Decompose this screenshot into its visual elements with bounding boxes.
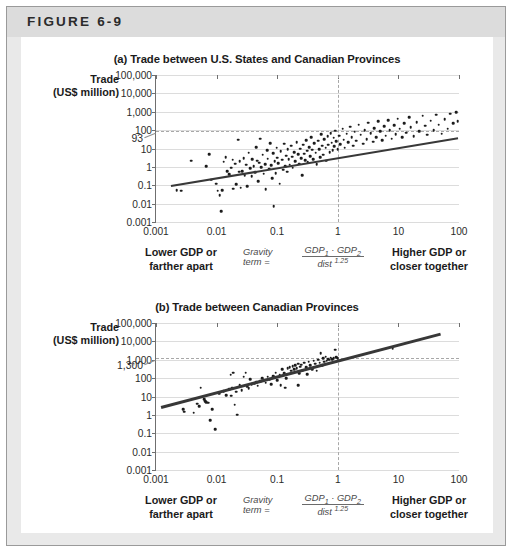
scatter-point	[332, 137, 335, 140]
scatter-point	[214, 428, 217, 431]
scatter-point	[250, 175, 253, 178]
panel-b-gravity-denominator: dist 1.25	[314, 506, 351, 517]
scatter-point	[198, 405, 201, 408]
figure-canvas: (a) Trade between U.S. States and Canadi…	[21, 37, 493, 533]
scatter-point	[443, 118, 446, 121]
scatter-point	[337, 148, 340, 151]
scatter-point	[307, 360, 310, 363]
y-tick-label: 0.1	[138, 428, 152, 439]
scatter-point	[372, 140, 375, 143]
y-tick-label: 10,000	[121, 336, 152, 347]
scatter-point	[220, 210, 223, 213]
scatter-point	[275, 172, 278, 175]
scatter-point	[277, 162, 280, 165]
x-tick-label: 0.01	[207, 226, 227, 237]
y-tick-mark	[152, 452, 156, 453]
scatter-point	[342, 138, 345, 141]
panel-b-gravity-fraction: GDP1 · GDP2 dist 1.25	[292, 493, 373, 517]
scatter-point	[248, 387, 251, 390]
scatter-point	[360, 134, 363, 137]
scatter-point	[437, 123, 440, 126]
y-tick-mark	[152, 222, 156, 223]
reference-value-annotation: 1,300	[117, 359, 143, 370]
scatter-point	[297, 384, 300, 387]
scatter-point	[353, 131, 356, 134]
y-tick-mark	[152, 433, 156, 434]
y-tick-mark	[152, 415, 156, 416]
scatter-point	[326, 135, 329, 138]
scatter-point	[319, 156, 322, 159]
y-tick-mark	[152, 397, 156, 398]
scatter-point	[209, 419, 212, 422]
panel-b-y-axis-label-line1: Trade	[27, 321, 119, 334]
scatter-point	[251, 158, 254, 161]
y-tick-mark	[152, 470, 156, 471]
gridline	[156, 75, 459, 76]
scatter-point	[408, 116, 411, 119]
scatter-point	[455, 111, 458, 114]
scatter-point	[236, 414, 239, 417]
x-tick-mark	[459, 323, 460, 327]
scatter-point	[345, 132, 348, 135]
scatter-point	[252, 165, 255, 168]
panel-b-caption-right: Higher GDP or closer together	[371, 493, 487, 521]
y-tick-label: 10	[141, 143, 152, 154]
scatter-point	[347, 141, 350, 144]
scatter-point	[379, 130, 382, 133]
scatter-point	[334, 129, 337, 132]
gridline	[156, 415, 459, 416]
scatter-point	[242, 375, 245, 378]
gridline	[156, 452, 459, 453]
scatter-point	[339, 143, 342, 146]
scatter-point	[319, 352, 322, 355]
scatter-point	[260, 166, 263, 169]
scatter-point	[315, 370, 318, 373]
scatter-point	[328, 151, 331, 154]
scatter-point	[317, 140, 320, 143]
scatter-point	[299, 147, 302, 150]
scatter-point	[381, 139, 384, 142]
y-tick-label: 0.1	[138, 180, 152, 191]
scatter-point	[391, 137, 394, 140]
panel-b-caption-left-line2: farther apart	[129, 507, 233, 521]
y-tick-mark	[152, 378, 156, 379]
scatter-point	[322, 153, 325, 156]
scatter-point	[302, 143, 305, 146]
scatter-point	[387, 119, 390, 122]
scatter-point	[273, 160, 276, 163]
scatter-point	[245, 163, 248, 166]
panel-b-y-axis-label: Trade (US$ million)	[27, 321, 119, 347]
scatter-point	[350, 136, 353, 139]
scatter-point	[362, 143, 365, 146]
scatter-point	[309, 155, 312, 158]
scatter-point	[367, 122, 370, 125]
reference-value-annotation: 93	[131, 132, 143, 143]
gridline	[156, 93, 459, 94]
scatter-point	[207, 402, 210, 405]
scatter-point	[432, 129, 435, 132]
scatter-point	[373, 127, 376, 130]
scatter-point	[398, 127, 401, 130]
scatter-point	[273, 205, 276, 208]
scatter-point	[330, 141, 333, 144]
scatter-point	[323, 138, 326, 141]
scatter-point	[456, 120, 459, 123]
scatter-point	[365, 138, 368, 141]
scatter-point	[333, 145, 336, 148]
scatter-point	[229, 374, 232, 377]
scatter-point	[331, 149, 334, 152]
gridline	[156, 112, 459, 113]
scatter-point	[270, 164, 273, 167]
y-tick-label: 100,000	[115, 70, 152, 81]
scatter-point	[388, 129, 391, 132]
scatter-point	[239, 186, 242, 189]
panel-a-caption-left-line2: farther apart	[129, 259, 233, 273]
panel-a-gravity-fraction: GDP1 · GDP2 dist 1.25	[292, 245, 373, 269]
x-tick-label: 100	[451, 226, 468, 237]
scatter-point	[300, 157, 303, 160]
scatter-point	[262, 154, 265, 157]
x-tick-label: 100	[451, 474, 468, 485]
scatter-point	[249, 167, 252, 170]
scatter-point	[327, 143, 330, 146]
scatter-point	[272, 152, 275, 155]
